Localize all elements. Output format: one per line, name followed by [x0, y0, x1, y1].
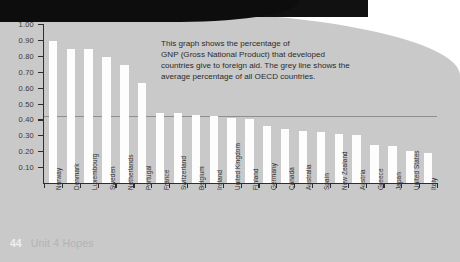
- x-axis-tick: [419, 183, 420, 188]
- x-axis-tick: [276, 183, 277, 188]
- x-axis-tick: [330, 183, 331, 188]
- unit-label: Unit 4 Hopes: [31, 237, 94, 249]
- y-axis-label: 0.80: [8, 52, 34, 61]
- y-axis-tick: [38, 72, 44, 73]
- x-axis-tick: [437, 183, 438, 188]
- y-axis-tick: [38, 56, 44, 57]
- y-axis-tick: [38, 135, 44, 136]
- page-number: 44: [10, 237, 22, 249]
- x-axis-tick: [62, 183, 63, 188]
- x-axis-tick: [44, 183, 45, 188]
- y-axis-label: 0.70: [8, 68, 34, 77]
- y-axis-label: 1.00: [8, 20, 34, 29]
- y-axis-tick: [38, 151, 44, 152]
- page-footer: 44 Unit 4 Hopes: [10, 237, 94, 249]
- x-axis-tick: [223, 183, 224, 188]
- x-axis-tick: [133, 183, 134, 188]
- y-axis-label: 0.20: [8, 147, 34, 156]
- y-axis-label: 0.10: [8, 163, 34, 172]
- callout-line-2: GNP (Gross National Product) that develo…: [161, 49, 393, 60]
- y-axis-tick: [38, 167, 44, 168]
- x-axis-tick: [366, 183, 367, 188]
- x-axis-tick: [294, 183, 295, 188]
- bar: [102, 57, 110, 183]
- bar: [49, 41, 57, 183]
- x-axis-tick: [383, 183, 384, 188]
- x-axis-tick: [151, 183, 152, 188]
- x-axis-tick: [187, 183, 188, 188]
- x-axis-tick: [312, 183, 313, 188]
- x-axis-tick: [258, 183, 259, 188]
- x-axis-tick: [115, 183, 116, 188]
- callout-line-3: countries give to foreign aid. The grey …: [161, 60, 393, 71]
- x-axis-tick: [205, 183, 206, 188]
- book-page-photo: 1.000.900.800.700.600.500.400.300.200.10…: [0, 0, 460, 262]
- y-axis-label: 0.90: [8, 36, 34, 45]
- x-axis-tick: [169, 183, 170, 188]
- y-axis-tick: [38, 119, 44, 120]
- y-axis-tick: [38, 40, 44, 41]
- x-axis-tick: [98, 183, 99, 188]
- y-axis-label: 0.40: [8, 115, 34, 124]
- callout-line-4: average percentage of all OECD countries…: [161, 71, 393, 82]
- callout-text: This graph shows the percentage of GNP (…: [161, 38, 393, 82]
- x-axis-tick: [401, 183, 402, 188]
- x-axis-tick: [348, 183, 349, 188]
- y-axis-label: 0.50: [8, 100, 34, 109]
- y-axis-tick: [38, 24, 44, 25]
- y-axis-label: 0.30: [8, 131, 34, 140]
- y-axis-tick: [38, 104, 44, 105]
- x-axis-tick: [80, 183, 81, 188]
- y-axis-label: 0.60: [8, 84, 34, 93]
- callout-line-1: This graph shows the percentage of: [161, 38, 393, 49]
- y-axis-tick: [38, 88, 44, 89]
- x-axis-tick: [241, 183, 242, 188]
